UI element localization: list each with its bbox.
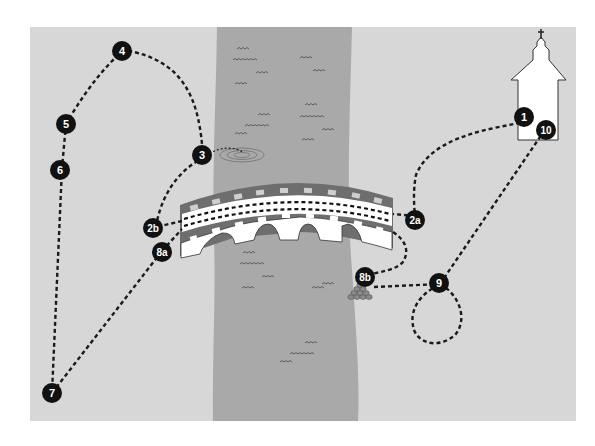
marker-10-label: 10: [540, 125, 552, 136]
marker-3[interactable]: 3: [192, 145, 212, 165]
route-map: 1 10 2a 2b 3 4 5 6 7 8a 8b 9: [0, 0, 595, 446]
marker-2a[interactable]: 2a: [405, 210, 425, 230]
marker-3-label: 3: [199, 149, 205, 161]
marker-1-label: 1: [521, 111, 527, 123]
marker-8a[interactable]: 8a: [152, 242, 172, 262]
marker-8b[interactable]: 8b: [355, 267, 375, 287]
marker-2b[interactable]: 2b: [143, 218, 163, 238]
marker-9[interactable]: 9: [429, 273, 449, 293]
marker-2a-label: 2a: [409, 215, 421, 226]
marker-6[interactable]: 6: [50, 160, 70, 180]
marker-4-label: 4: [119, 45, 126, 57]
marker-4[interactable]: 4: [112, 41, 132, 61]
marker-9-label: 9: [436, 277, 442, 289]
marker-10[interactable]: 10: [536, 120, 556, 140]
marker-7[interactable]: 7: [42, 383, 62, 403]
marker-5[interactable]: 5: [56, 114, 76, 134]
marker-8b-label: 8b: [359, 272, 371, 283]
marker-6-label: 6: [57, 164, 63, 176]
marker-1[interactable]: 1: [514, 107, 534, 127]
marker-5-label: 5: [63, 118, 69, 130]
marker-8a-label: 8a: [156, 247, 168, 258]
marker-2b-label: 2b: [147, 223, 159, 234]
marker-7-label: 7: [49, 387, 55, 399]
